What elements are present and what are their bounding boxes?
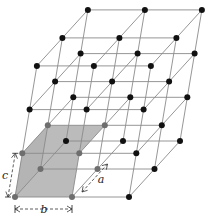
label-a: a	[98, 173, 105, 186]
lattice-point	[142, 7, 148, 13]
lattice-point	[159, 122, 165, 128]
lattice-point	[177, 138, 183, 144]
lattice-point	[27, 107, 33, 113]
lattice-point	[34, 63, 40, 69]
lattice-point	[59, 35, 65, 41]
dimension-c	[8, 153, 15, 197]
lattice-point	[70, 94, 76, 100]
label-c: c	[2, 169, 8, 182]
unit-cell-point	[19, 150, 25, 156]
unit-cell-point	[76, 150, 82, 156]
lattice-point	[148, 63, 154, 69]
lattice-point	[52, 79, 58, 85]
lattice-point	[135, 51, 141, 57]
lattice-point	[63, 138, 69, 144]
lattice-point	[85, 7, 91, 13]
lattice-point	[91, 63, 97, 69]
lattice-point	[192, 51, 198, 57]
unit-cell	[15, 125, 105, 197]
lattice-point	[126, 194, 132, 200]
unit-cell-point	[38, 166, 44, 172]
lattice-point	[116, 35, 122, 41]
label-b: b	[41, 203, 48, 216]
lattice-point	[184, 94, 190, 100]
lattice-point	[120, 138, 126, 144]
lattice-point	[141, 107, 147, 113]
unit-cell-point	[69, 194, 75, 200]
unit-cell-point	[12, 194, 18, 200]
lattice-point	[199, 7, 205, 13]
unit-cell-point	[102, 122, 108, 128]
lattice-point	[78, 51, 84, 57]
unit-cell-point	[95, 166, 101, 172]
unit-cell-point	[45, 122, 51, 128]
lattice-point	[109, 79, 115, 85]
lattice-diagram: c b a	[0, 0, 210, 218]
lattice-point	[84, 107, 90, 113]
lattice-point	[127, 94, 133, 100]
lattice-point	[133, 150, 139, 156]
lattice-point	[166, 79, 172, 85]
lattice-point	[152, 166, 158, 172]
lattice-point	[173, 35, 179, 41]
